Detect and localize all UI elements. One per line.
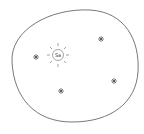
star-icon [58, 88, 64, 94]
star-icon [111, 78, 117, 84]
sun-label: Sa [52, 51, 64, 59]
boundary-outline [12, 10, 138, 122]
star-icon [33, 54, 39, 60]
diagram-canvas [0, 0, 144, 134]
star-icon [98, 36, 104, 42]
